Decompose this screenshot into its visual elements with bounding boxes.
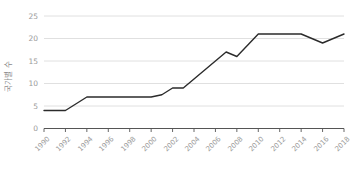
- y-axis-title-text: 국가별 수: [3, 60, 14, 92]
- y-tick-label: 10: [16, 79, 38, 88]
- x-tick-marks-group: [44, 129, 344, 133]
- y-tick-label: 0: [16, 124, 38, 133]
- y-tick-label: 5: [16, 102, 38, 111]
- data-series-line: [44, 34, 344, 111]
- gridlines-group: [44, 16, 344, 106]
- y-axis-title: 국가별 수: [1, 46, 15, 106]
- y-tick-label: 15: [16, 57, 38, 66]
- line-chart: 국가별 수 0510152025 19901992199419961998200…: [0, 0, 350, 169]
- y-tick-label: 25: [16, 12, 38, 21]
- y-tick-label: 20: [16, 34, 38, 43]
